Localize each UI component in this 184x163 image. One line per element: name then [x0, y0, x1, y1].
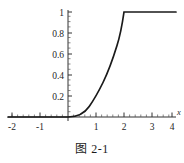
- y-tick-label-08: 0.8: [52, 29, 64, 39]
- y-tick-label-1: 1: [59, 8, 64, 18]
- x-tick-label-neg1: -1: [36, 122, 44, 132]
- figure-container: -2 -1 1 2 3 4 0.2 0.4 0.6 0.8 1 x 图 2-1: [0, 0, 184, 163]
- x-tick-label-1: 1: [94, 122, 99, 132]
- y-tick-label-04: 0.4: [52, 71, 64, 81]
- x-tick-label-3: 3: [150, 122, 155, 132]
- figure-caption: 图 2-1: [0, 139, 184, 157]
- plot-svg: -2 -1 1 2 3 4 0.2 0.4 0.6 0.8 1 x: [0, 0, 184, 136]
- x-tick-label-neg2: -2: [8, 122, 16, 132]
- x-tick-label-2: 2: [122, 122, 127, 132]
- plot-background: [0, 0, 184, 136]
- plot-area: -2 -1 1 2 3 4 0.2 0.4 0.6 0.8 1 x: [0, 0, 184, 136]
- x-tick-label-4: 4: [170, 122, 175, 132]
- y-tick-label-06: 0.6: [52, 50, 64, 60]
- y-tick-label-02: 0.2: [52, 92, 64, 102]
- x-axis-label: x: [176, 107, 181, 117]
